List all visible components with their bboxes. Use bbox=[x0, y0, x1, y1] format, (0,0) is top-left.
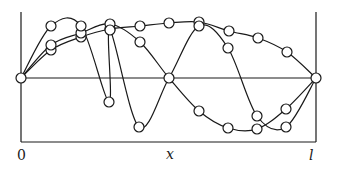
sample-point-marker bbox=[281, 122, 291, 132]
sample-point-marker bbox=[135, 37, 145, 47]
sample-point-marker bbox=[134, 122, 144, 132]
sample-point-marker bbox=[253, 33, 263, 43]
sample-point-marker bbox=[252, 111, 262, 121]
x-axis-label: x bbox=[166, 147, 174, 161]
sample-point-marker bbox=[135, 21, 145, 31]
end-label: l bbox=[309, 148, 313, 162]
sample-point-marker bbox=[281, 104, 291, 114]
sample-point-marker bbox=[252, 124, 262, 134]
sample-point-marker bbox=[164, 73, 174, 83]
sample-point-marker bbox=[223, 43, 233, 53]
sample-point-marker bbox=[46, 21, 56, 31]
sample-point-marker bbox=[282, 47, 292, 57]
sample-point-marker bbox=[16, 73, 26, 83]
string-modes-diagram bbox=[0, 0, 337, 170]
sample-point-marker bbox=[104, 97, 114, 107]
sample-point-marker bbox=[105, 25, 115, 35]
sample-point-marker bbox=[194, 21, 204, 31]
mode-1-curve bbox=[21, 22, 316, 78]
sample-point-marker bbox=[224, 26, 234, 36]
sample-point-marker bbox=[76, 21, 86, 31]
sample-point-markers bbox=[16, 17, 321, 134]
sample-point-marker bbox=[164, 18, 174, 28]
origin-label: 0 bbox=[17, 148, 26, 162]
sample-point-marker bbox=[194, 106, 204, 116]
sample-point-marker bbox=[311, 73, 321, 83]
sample-point-marker bbox=[223, 123, 233, 133]
sample-point-marker bbox=[46, 40, 56, 50]
